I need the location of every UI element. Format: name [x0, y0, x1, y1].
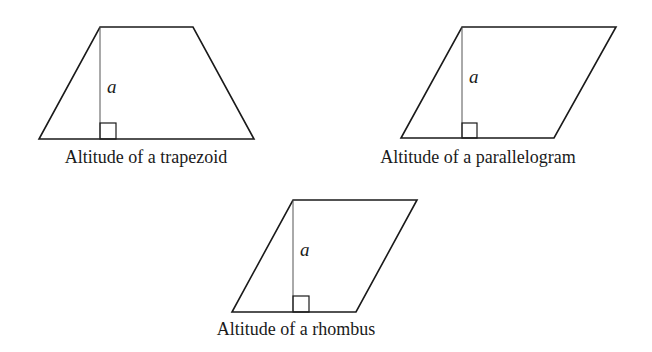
trapezoid-figure: a Altitude of a trapezoid — [39, 27, 254, 167]
parallelogram-caption: Altitude of a parallelogram — [380, 147, 575, 167]
trapezoid-shape — [39, 27, 254, 139]
parallelogram-altitude-label: a — [469, 66, 479, 87]
parallelogram-right-angle-marker — [462, 123, 477, 138]
trapezoid-altitude-label: a — [107, 76, 117, 97]
parallelogram-shape — [401, 27, 616, 138]
rhombus-right-angle-marker — [293, 296, 309, 312]
rhombus-figure: a Altitude of a rhombus — [217, 200, 417, 339]
rhombus-altitude-label: a — [300, 239, 310, 260]
rhombus-caption: Altitude of a rhombus — [217, 319, 375, 339]
rhombus-shape — [232, 200, 417, 312]
parallelogram-figure: a Altitude of a parallelogram — [380, 27, 616, 167]
altitude-diagrams: a Altitude of a trapezoid a Altitude of … — [0, 0, 652, 352]
trapezoid-right-angle-marker — [100, 123, 116, 139]
trapezoid-caption: Altitude of a trapezoid — [65, 147, 227, 167]
